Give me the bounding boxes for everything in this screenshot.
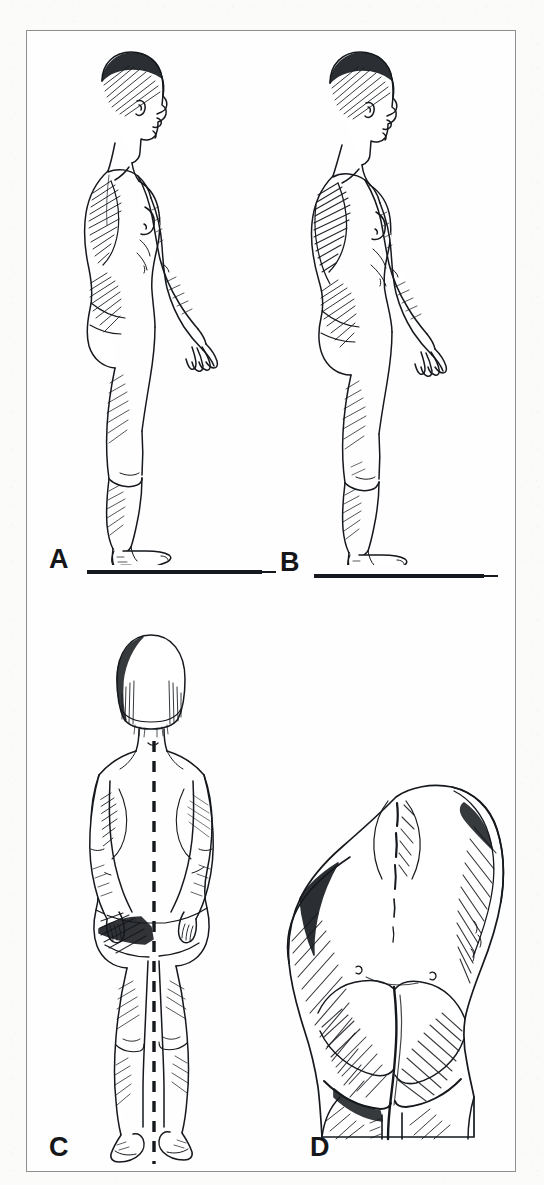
panel-label-c: C	[49, 1134, 69, 1161]
panel-d: D	[272, 601, 517, 1171]
panel-c: C	[27, 601, 277, 1171]
figure-d-lower-back-closeup-drawing	[278, 781, 518, 1141]
panel-label-d: D	[310, 1134, 330, 1161]
panel-b-ground-line	[314, 574, 484, 578]
panel-a: A	[27, 31, 272, 571]
figure-c-posterior-plumbline-drawing	[47, 621, 267, 1166]
panel-b-ground-line-taper	[480, 575, 498, 577]
panel-a-ground-line	[87, 570, 262, 574]
figure-a-lateral-posture-drawing	[45, 35, 260, 565]
panel-label-b: B	[280, 549, 300, 576]
figure-b-lateral-kyphotic-posture-drawing	[280, 35, 500, 565]
panel-a-ground-line-taper	[258, 571, 276, 573]
panel-label-a: A	[49, 546, 69, 573]
panel-b: B	[262, 31, 512, 571]
figure-plate-frame: A	[26, 30, 516, 1172]
figure-root: A	[0, 0, 544, 1185]
